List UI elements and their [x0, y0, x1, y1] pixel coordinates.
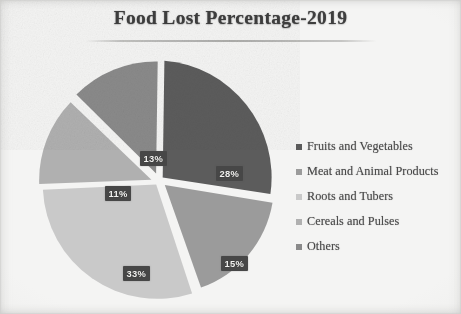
pie-data-label-others: 13% [140, 151, 167, 166]
pie-data-label-meat-and-animal-products: 15% [221, 256, 248, 271]
page-title: Food Lost Percentage-2019 [0, 7, 461, 29]
legend-square-marker-icon [296, 194, 302, 200]
pie-plot-area: 28% 15% 33% 11% 13% [18, 40, 298, 314]
legend-item-fruits-and-vegetables[interactable]: Fruits and Vegetables [296, 134, 456, 159]
legend-square-marker-icon [296, 244, 302, 250]
legend-item-label: Roots and Tubers [307, 189, 393, 204]
chart-title-band: Food Lost Percentage-2019 [0, 0, 461, 44]
legend-item-roots-and-tubers[interactable]: Roots and Tubers [296, 184, 456, 209]
title-divider [86, 40, 376, 42]
chart-legend: Fruits and Vegetables Meat and Animal Pr… [296, 134, 456, 259]
legend-item-label: Meat and Animal Products [307, 164, 439, 179]
pie-data-label-cereals-and-pulses: 11% [105, 186, 131, 201]
pie-svg [18, 40, 298, 314]
legend-square-marker-icon [296, 219, 302, 225]
pie-slice-roots-and-tubers[interactable] [43, 185, 192, 299]
legend-item-label: Cereals and Pulses [307, 214, 399, 229]
legend-item-meat-and-animal-products[interactable]: Meat and Animal Products [296, 159, 456, 184]
pie-data-label-fruits-and-vegetables: 28% [216, 166, 243, 181]
legend-item-label: Others [307, 239, 340, 254]
pie-data-label-roots-and-tubers: 33% [123, 266, 150, 281]
legend-square-marker-icon [296, 144, 302, 150]
legend-square-marker-icon [296, 169, 302, 175]
legend-item-label: Fruits and Vegetables [307, 139, 413, 154]
legend-item-others[interactable]: Others [296, 234, 456, 259]
legend-item-cereals-and-pulses[interactable]: Cereals and Pulses [296, 209, 456, 234]
pie-chart-figure: Food Lost Percentage-2019 28% 15% 33% 11… [0, 0, 461, 314]
